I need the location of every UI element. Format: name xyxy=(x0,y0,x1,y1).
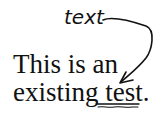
document-line-2: existing test. xyxy=(13,79,150,106)
handwritten-insert-text: text xyxy=(64,5,105,29)
marked-word: test. xyxy=(105,77,149,107)
proofreading-canvas: This is an existing test. text xyxy=(0,0,164,118)
line-2-text: existing xyxy=(13,77,105,107)
document-line-1: This is an xyxy=(13,51,118,78)
